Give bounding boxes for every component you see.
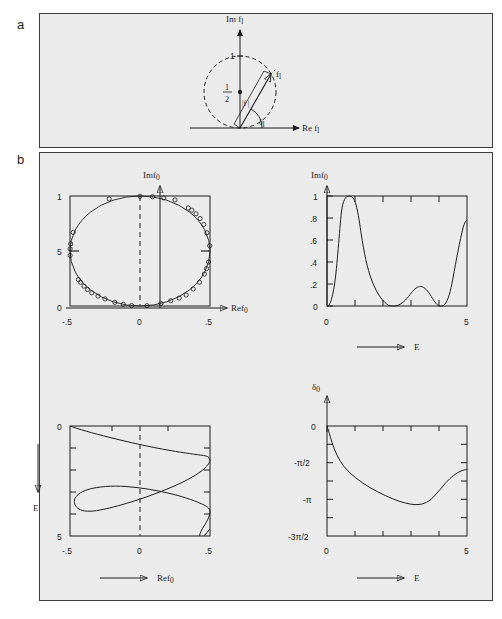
panel-label-a: a	[17, 17, 24, 32]
panel-label-b: b	[17, 152, 24, 167]
panel-a-frame	[39, 13, 493, 148]
panel-b-frame	[39, 152, 493, 601]
figure-root: a b	[0, 0, 502, 619]
